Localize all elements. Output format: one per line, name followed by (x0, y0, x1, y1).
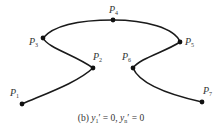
label-p7: P7 (203, 86, 212, 97)
point-p3-marker (41, 36, 46, 41)
point-p2-marker (91, 66, 96, 71)
figure-caption: (b) y1′ = 0, yn′ = 0 (0, 113, 222, 124)
label-p4: P4 (109, 5, 118, 16)
point-p7-marker (200, 100, 205, 105)
point-p5-marker (178, 40, 183, 45)
label-p6: P6 (122, 52, 131, 63)
curve-segment-p3-p4 (43, 20, 113, 38)
label-p1: P1 (10, 88, 19, 99)
curve-segment-p2-p3 (43, 38, 93, 68)
label-p2: P2 (93, 52, 102, 63)
point-p6-marker (131, 66, 136, 71)
label-p3: P3 (29, 37, 38, 48)
spline-diagram (0, 0, 222, 130)
point-p4-marker (111, 18, 116, 23)
curve-segment-p6-p7 (133, 68, 202, 102)
curve-segment-p4-p5 (113, 20, 180, 42)
curve-segment-p1-p2 (22, 68, 93, 104)
curve-segment-p5-p6 (133, 42, 180, 68)
point-p1-marker (20, 102, 25, 107)
label-p5: P5 (185, 37, 194, 48)
